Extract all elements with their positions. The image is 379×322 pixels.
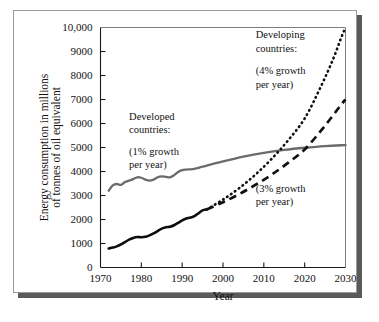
y-tick-label: 1000 xyxy=(71,237,94,249)
x-axis-ticks: 1970198019902000201020202030 xyxy=(90,263,358,284)
x-tick-label: 1980 xyxy=(130,272,153,284)
x-axis-title: Year xyxy=(212,290,233,302)
annotation-developing-label: Developing xyxy=(256,29,306,40)
x-tick-label: 1990 xyxy=(171,272,194,284)
y-tick-label: 3000 xyxy=(71,189,94,201)
series-line-2 xyxy=(109,209,207,248)
x-tick-label: 2030 xyxy=(335,272,358,284)
y-tick-label: 8000 xyxy=(71,69,94,81)
y-tick-label: 5000 xyxy=(71,141,94,153)
x-tick-label: 2020 xyxy=(294,272,317,284)
annotation-developed-label: Developed xyxy=(129,111,175,122)
annotation-developing-growth3b: per year) xyxy=(256,196,294,208)
y-tick-label: 6000 xyxy=(71,117,94,129)
data-series-group xyxy=(109,28,346,249)
annotation-developing-growth3: (3% growth xyxy=(256,183,307,195)
x-tick-label: 1970 xyxy=(90,272,113,284)
annotation-developed-label2: countries: xyxy=(129,124,170,135)
y-tick-label: 4000 xyxy=(71,165,94,177)
annotation-developed-growth: (1% growth xyxy=(129,146,180,158)
x-tick-label: 2010 xyxy=(253,272,276,284)
y-tick-label: 9000 xyxy=(71,45,94,57)
energy-consumption-line-chart: 010002000300040005000600070008000900010,… xyxy=(0,0,379,322)
annotation-developing-label2: countries: xyxy=(256,43,297,54)
annotation-developing-growth4: (4% growth xyxy=(256,65,307,77)
annotation-developed-growth2: per year) xyxy=(129,159,167,171)
y-axis-title-line2: of tonnes of oil equivalent xyxy=(50,86,63,208)
annotation-developing-growth4b: per year) xyxy=(256,79,294,91)
figure-root: 010002000300040005000600070008000900010,… xyxy=(0,0,379,322)
chart-annotations: Developedcountries:(1% growthper year)De… xyxy=(129,29,306,208)
x-tick-label: 2000 xyxy=(212,272,235,284)
y-tick-label: 2000 xyxy=(71,213,94,225)
y-tick-label: 10,000 xyxy=(62,21,93,33)
y-tick-label: 7000 xyxy=(71,93,94,105)
y-axis-ticks: 010002000300040005000600070008000900010,… xyxy=(62,21,105,273)
